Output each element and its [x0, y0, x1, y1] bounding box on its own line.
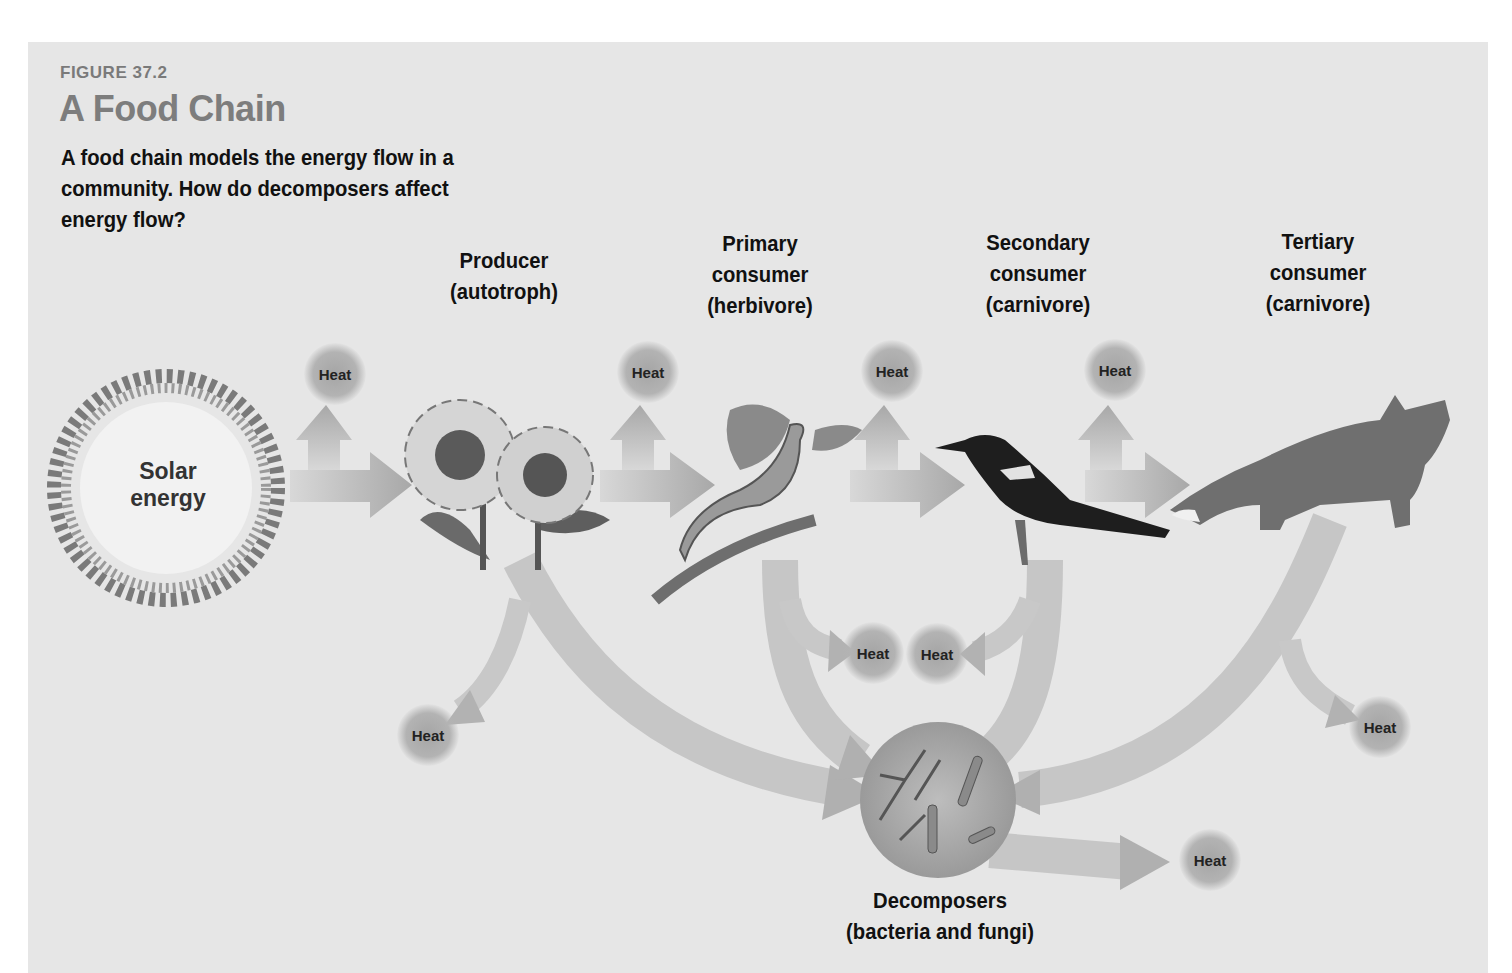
heat-node: Heat [842, 622, 904, 684]
secondary-consumer-label: Secondary consumer (carnivore) [964, 227, 1111, 320]
heat-node: Heat [861, 340, 923, 402]
heat-node: Heat [1084, 339, 1146, 401]
sunflower-icon [405, 400, 610, 570]
fox-icon [1170, 395, 1450, 530]
food-chain-diagram [0, 0, 1512, 973]
microbe-icon [860, 722, 1016, 878]
tertiary-consumer-label: Tertiary consumer (carnivore) [1244, 226, 1391, 319]
solar-energy-label: Solar energy [118, 458, 218, 512]
primary-consumer-label: Primary consumer (herbivore) [686, 228, 833, 321]
heat-node: Heat [1179, 829, 1241, 891]
heat-node: Heat [304, 343, 366, 405]
heat-node: Heat [906, 623, 968, 685]
producer-label: Producer (autotroph) [430, 245, 577, 307]
decomposers-label: Decomposers (bacteria and fungi) [830, 885, 1051, 947]
heat-node: Heat [1349, 696, 1411, 758]
heat-node: Heat [397, 704, 459, 766]
heat-node: Heat [617, 341, 679, 403]
